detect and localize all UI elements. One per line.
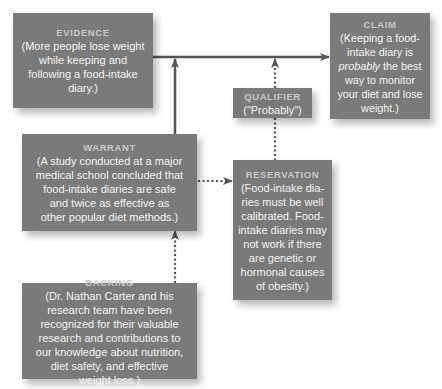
reservation-title: RESERVATION — [233, 168, 332, 181]
evidence-box: EVIDENCE (More people lose weight while … — [13, 13, 153, 108]
backing-box: BACKING (Dr. Nathan Carter and his resea… — [22, 283, 197, 379]
qualifier-box: QUALIFIER ("Probably") — [233, 88, 312, 118]
evidence-text: (More people lose weight while keeping a… — [13, 39, 153, 95]
reservation-text: (Food-intake dia- ries must be well cali… — [233, 181, 332, 293]
claim-text-pre: (Keeping a food- intake diary is — [340, 32, 420, 58]
claim-title: CLAIM — [330, 18, 430, 31]
warrant-text: (A study conducted at a major medical sc… — [22, 154, 197, 224]
qualifier-text: ("Probably") — [233, 103, 312, 117]
claim-text-emphasis: probably — [339, 60, 380, 72]
warrant-title: WARRANT — [22, 141, 197, 154]
evidence-title: EVIDENCE — [13, 26, 153, 39]
backing-title: BACKING — [22, 276, 197, 289]
claim-box: CLAIM (Keeping a food- intake diary is p… — [330, 13, 430, 119]
claim-text: (Keeping a food- intake diary is probabl… — [330, 31, 430, 115]
backing-text: (Dr. Nathan Carter and his research team… — [22, 289, 197, 387]
warrant-box: WARRANT (A study conducted at a major me… — [22, 134, 197, 231]
qualifier-title: QUALIFIER — [233, 90, 312, 103]
reservation-box: RESERVATION (Food-intake dia- ries must … — [233, 160, 332, 300]
